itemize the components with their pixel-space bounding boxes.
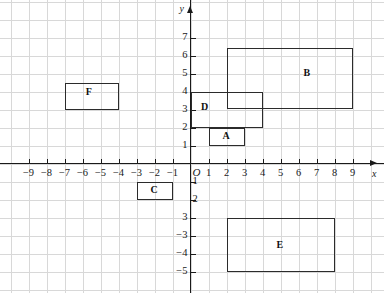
x-axis-tick [65,159,66,164]
x-axis-tick [335,159,336,164]
x-axis-tick-label: −1 [164,167,182,178]
y-axis-tick-label: 2 [172,121,188,132]
x-axis-tick-label: −3 [128,167,146,178]
y-axis-tick-label: 1 [172,139,188,150]
coordinate-plane-figure: x y O −9−8−7−6−5−4−3−2−11234567897654321… [0,0,384,293]
y-axis-tick-label: 1 [193,175,209,186]
x-axis-tick-label: 9 [344,167,362,178]
y-axis-tick-label: 7 [172,31,188,42]
x-axis-tick-label: 3 [236,167,254,178]
y-axis-arrow-icon [187,6,193,13]
x-axis-tick [299,159,300,164]
grid-line-vertical [137,0,138,293]
x-axis-tick-label: −7 [56,167,74,178]
rectangle-label-c: C [151,184,158,195]
x-axis-tick [353,159,354,164]
y-axis [190,0,192,293]
grid-line-vertical [209,0,210,293]
grid-line-vertical [371,0,372,293]
x-axis-tick [101,159,102,164]
rectangle-label-d: D [201,101,208,112]
y-axis-tick [191,128,196,129]
x-axis-tick [155,159,156,164]
x-axis-tick [227,159,228,164]
x-axis-tick [29,159,30,164]
x-axis-tick-label: 5 [272,167,290,178]
rectangle-label-e: E [277,239,284,250]
y-axis-tick [191,146,196,147]
x-axis-tick [209,159,210,164]
x-axis-tick-label: −9 [20,167,38,178]
x-axis-tick-label: 2 [218,167,236,178]
y-axis-tick [191,236,196,237]
grid-line-vertical [101,0,102,293]
x-axis-tick [263,159,264,164]
y-axis-tick [191,218,196,219]
rectangle-label-f: F [86,86,92,97]
y-axis-tick-label: −4 [172,247,188,258]
x-axis-label: x [372,168,376,179]
grid-line-vertical [353,0,354,293]
x-axis-tick-label: 8 [326,167,344,178]
grid-line-horizontal [0,20,384,21]
y-axis-tick-label: −5 [172,265,188,276]
x-axis-tick [281,159,282,164]
grid-line-vertical [119,0,120,293]
x-axis [0,163,384,165]
rectangle-label-a: A [223,130,230,141]
y-axis-label: y [180,3,184,14]
x-axis-tick-label: −5 [92,167,110,178]
grid-line-vertical [29,0,30,293]
y-axis-tick-label: 5 [172,67,188,78]
x-axis-tick-label: −8 [38,167,56,178]
x-axis-tick [119,159,120,164]
grid-line-vertical [11,0,12,293]
x-axis-tick-label: 6 [290,167,308,178]
y-axis-tick [191,272,196,273]
y-axis-tick-label: 4 [172,85,188,96]
y-axis-tick-label: 3 [172,211,188,222]
x-axis-tick-label: −4 [110,167,128,178]
grid-line-vertical [83,0,84,293]
y-axis-tick-label: 2 [193,193,209,204]
x-axis-arrow-icon [370,160,377,166]
y-axis-tick [191,38,196,39]
rectangle-label-b: B [304,67,311,78]
grid-line-vertical [155,0,156,293]
grid-line-vertical [65,0,66,293]
y-axis-tick-label: 3 [172,103,188,114]
x-axis-tick [317,159,318,164]
y-axis-tick [191,74,196,75]
x-axis-tick [173,159,174,164]
x-axis-tick-label: 4 [254,167,272,178]
grid-line-horizontal [0,2,384,3]
y-axis-tick [191,56,196,57]
grid-line-vertical [47,0,48,293]
grid-line-horizontal [0,290,384,291]
y-axis-tick [191,254,196,255]
x-axis-tick-label: 7 [308,167,326,178]
x-axis-tick [245,159,246,164]
grid-line-vertical [335,0,336,293]
x-axis-tick-label: −2 [146,167,164,178]
x-axis-tick [83,159,84,164]
x-axis-tick [47,159,48,164]
x-axis-tick [137,159,138,164]
y-axis-tick-label: 6 [172,49,188,60]
x-axis-tick-label: −6 [74,167,92,178]
y-axis-tick-label: −3 [172,229,188,240]
